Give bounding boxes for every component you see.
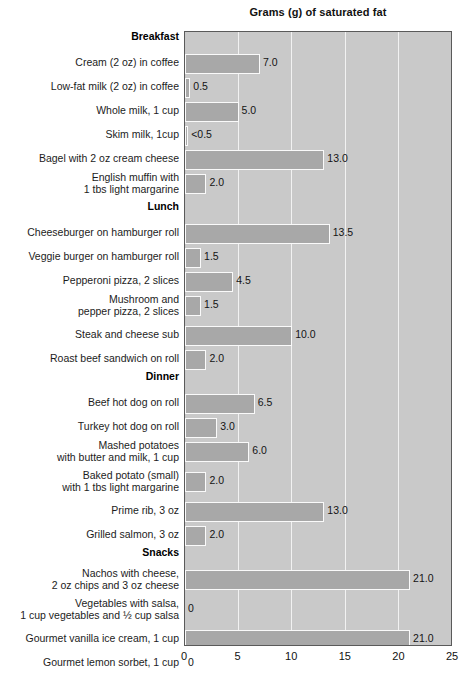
bar [185, 394, 255, 414]
bar [185, 472, 206, 492]
category-label: Cheeseburger on hamburger roll [4, 227, 184, 239]
category-label: Vegetables with salsa, 1 cup vegetables … [4, 598, 184, 621]
bar [185, 526, 206, 546]
category-label: English muffin with 1 tbs light margarin… [4, 172, 184, 195]
x-tick-label-0: 0 [181, 650, 187, 662]
bar [185, 102, 239, 122]
bar-value-label: 1.5 [204, 251, 219, 262]
gridline-15 [345, 32, 346, 645]
x-tick-label-15: 15 [339, 650, 351, 662]
category-label: Mashed potatoes with butter and milk, 1 … [4, 440, 184, 463]
section-header-lunch: Lunch [4, 201, 184, 213]
bar [185, 224, 330, 244]
x-tick-label-5: 5 [235, 650, 241, 662]
category-label: Prime rib, 3 oz [4, 505, 184, 517]
x-tick-label-25: 25 [446, 650, 458, 662]
category-label: Steak and cheese sub [4, 329, 184, 341]
x-tick-label-20: 20 [392, 650, 404, 662]
category-label: Turkey hot dog on roll [4, 421, 184, 433]
chart-title: Grams (g) of saturated fat [184, 6, 452, 18]
category-label: Bagel with 2 oz cream cheese [4, 153, 184, 165]
bar [185, 54, 260, 74]
bar [185, 150, 324, 170]
bar-value-label: 2.0 [209, 529, 224, 540]
category-label: Nachos with cheese, 2 oz chips and 3 oz … [4, 568, 184, 591]
bar-value-label: 6.5 [258, 397, 273, 408]
bar-value-label: 0 [188, 603, 194, 614]
section-header-dinner: Dinner [4, 371, 184, 383]
section-header-breakfast: Breakfast [4, 31, 184, 43]
bar [185, 502, 324, 522]
category-label: Grilled salmon, 3 oz [4, 529, 184, 541]
bar-value-label: 2.0 [209, 353, 224, 364]
bar [185, 248, 201, 268]
bar-value-label: 4.5 [236, 275, 251, 286]
category-label: Whole milk, 1 cup [4, 105, 184, 117]
bar-value-label: 6.0 [252, 445, 267, 456]
saturated-fat-bar-chart: Grams (g) of saturated fat BreakfastCrea… [0, 0, 473, 677]
bar-value-label: 3.0 [220, 421, 235, 432]
bar [185, 350, 206, 370]
bar [185, 174, 206, 194]
category-label: Veggie burger on hamburger roll [4, 251, 184, 263]
bar [185, 326, 292, 346]
bar-value-label: <0.5 [191, 129, 212, 140]
category-label: Pepperoni pizza, 2 slices [4, 275, 184, 287]
plot-area [184, 31, 452, 646]
x-axis: 0510152025 [184, 650, 452, 668]
bar-value-label: 1.5 [204, 299, 219, 310]
bar [185, 296, 201, 316]
bar [185, 630, 410, 646]
category-label: Gourmet lemon sorbet, 1 cup [4, 657, 184, 669]
category-label: Roast beef sandwich on roll [4, 353, 184, 365]
bar-value-label: 21.0 [413, 633, 433, 644]
category-label: Cream (2 oz) in coffee [4, 57, 184, 69]
bar [185, 418, 217, 438]
category-label: Low-fat milk (2 oz) in coffee [4, 81, 184, 93]
category-label: Beef hot dog on roll [4, 397, 184, 409]
bar-value-label: 2.0 [209, 177, 224, 188]
x-tick-label-10: 10 [285, 650, 297, 662]
bar [185, 442, 249, 462]
bar-value-label: 13.5 [333, 227, 353, 238]
bar-value-label: 13.0 [327, 153, 347, 164]
bar [185, 570, 410, 590]
bar-value-label: 7.0 [263, 57, 278, 68]
bar [185, 78, 190, 98]
bar-value-label: 10.0 [295, 329, 315, 340]
gridline-20 [398, 32, 399, 645]
bar-value-label: 2.0 [209, 475, 224, 486]
category-label: Baked potato (small) with 1 tbs light ma… [4, 470, 184, 493]
section-header-snacks: Snacks [4, 547, 184, 559]
category-label: Mushroom and pepper pizza, 2 slices [4, 294, 184, 317]
category-label: Skim milk, 1cup [4, 129, 184, 141]
bar-value-label: 21.0 [413, 573, 433, 584]
bar [185, 126, 188, 146]
bar-value-label: 0.5 [193, 81, 208, 92]
bar-value-label: 13.0 [327, 505, 347, 516]
bar-value-label: 5.0 [242, 105, 257, 116]
bar [185, 272, 233, 292]
category-label: Gourmet vanilla ice cream, 1 cup [4, 633, 184, 645]
